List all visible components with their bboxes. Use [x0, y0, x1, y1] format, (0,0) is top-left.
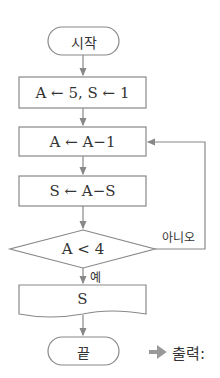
decrement-label: A ← A−1 — [19, 133, 146, 151]
init-label: A ← 5, S ← 1 — [19, 84, 146, 102]
arrow-right-icon — [150, 347, 165, 357]
no-branch-label: 아니오 — [162, 228, 195, 245]
end-label: 끝 — [48, 342, 119, 362]
condition-label: A < 4 — [33, 240, 133, 258]
update-label: S ← A−S — [19, 182, 146, 200]
yes-branch-label: 예 — [90, 268, 101, 285]
result-label: 출력: — [172, 342, 205, 363]
start-label: 시작 — [48, 32, 119, 52]
output-label: S — [19, 290, 146, 308]
